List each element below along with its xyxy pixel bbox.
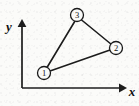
edge-node3-node2	[81, 20, 112, 45]
node-1-label: 1	[42, 68, 46, 78]
node-2[interactable]: 2	[110, 42, 123, 55]
triangle-element-diagram: x y 1 2 3	[0, 0, 139, 106]
edge-node1-node2	[50, 50, 110, 71]
edge-node1-node3	[47, 21, 75, 68]
node-3[interactable]: 3	[71, 9, 84, 22]
y-axis-label: y	[4, 19, 12, 34]
node-3-label: 3	[75, 10, 79, 20]
figure-canvas: x y 1 2 3	[0, 0, 139, 106]
node-1[interactable]: 1	[38, 67, 51, 80]
x-axis-label: x	[128, 84, 136, 99]
x-axis-arrow-icon	[119, 84, 127, 93]
y-axis-arrow-icon	[18, 19, 27, 27]
triangle-edges-group	[47, 20, 112, 72]
node-2-label: 2	[114, 43, 118, 53]
